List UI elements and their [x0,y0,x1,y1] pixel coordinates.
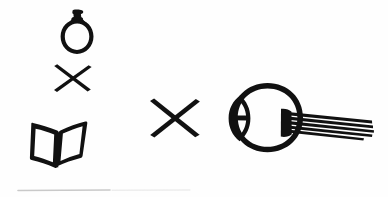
scan-artifact-line [18,190,190,191]
pupil-slit-icon [231,115,248,120]
bottle [61,9,94,53]
open-book-icon [30,122,87,168]
bottle-body-icon [61,20,94,54]
eyeball-icon [229,83,374,152]
multiplication-sign-left-icon [54,64,92,92]
pictogram-canvas: Bottle times book times eye [0,0,388,197]
multiplication-sign-center-icon [150,99,200,138]
